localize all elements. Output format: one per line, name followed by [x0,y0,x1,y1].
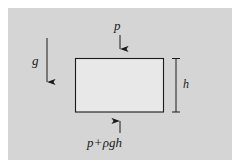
bottom-pressure-operator: + [94,135,103,150]
bottom-pressure-term1: p [87,135,94,150]
physics-figure: p g h p+ρgh [0,0,239,167]
bottom-pressure-term2: ρgh [103,135,122,150]
gravity-label: g [32,54,39,67]
bottom-pressure-label: p+ρgh [87,136,122,149]
top-pressure-label: p [114,19,121,32]
fluid-element-rectangle [76,59,164,113]
height-label: h [183,78,189,90]
